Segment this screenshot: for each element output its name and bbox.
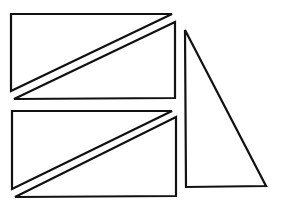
triangle-right-tall xyxy=(185,30,266,187)
triangle-diagram xyxy=(0,0,284,207)
